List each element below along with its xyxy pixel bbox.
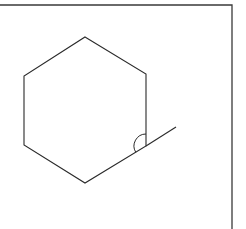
background — [0, 0, 246, 229]
hexagon-exterior-angle-diagram — [0, 0, 246, 229]
